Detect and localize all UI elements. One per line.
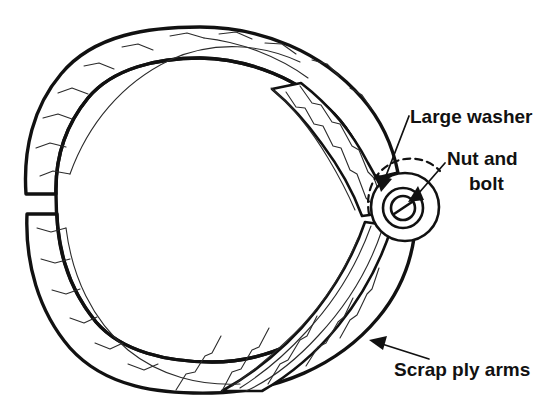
diagram-canvas: Large washer Nut and bolt Scrap ply arms [0, 0, 553, 413]
label-nut-and-bolt-line1: Nut and [447, 148, 518, 169]
label-scrap-ply-arms: Scrap ply arms [394, 359, 530, 380]
leader-line-scrap-ply-arms [382, 344, 429, 359]
leader-arrow-scrap-ply-arms [369, 336, 387, 350]
label-nut-and-bolt-line2: bolt [469, 173, 504, 194]
tyre-ring-diagram: Large washer Nut and bolt Scrap ply arms [0, 0, 553, 413]
label-large-washer: Large washer [410, 106, 533, 127]
